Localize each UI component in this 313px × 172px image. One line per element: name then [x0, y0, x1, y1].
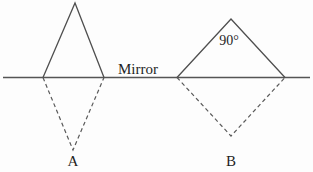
object-b-label: B — [226, 153, 236, 169]
object-b-prism — [177, 19, 285, 78]
reflection-a-dashed — [43, 78, 104, 151]
object-a-triangle — [43, 3, 104, 78]
diagram-canvas: Mirror 90° A B — [0, 0, 313, 172]
mirror-reflection-diagram: Mirror 90° A B — [0, 0, 313, 172]
object-a-label: A — [68, 153, 79, 169]
angle-label: 90° — [219, 33, 239, 48]
reflection-b-dashed — [177, 78, 285, 137]
mirror-label: Mirror — [118, 61, 158, 77]
